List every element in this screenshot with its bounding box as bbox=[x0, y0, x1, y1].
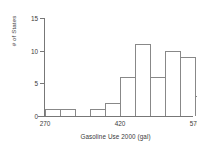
histogram-bar bbox=[90, 109, 106, 116]
histogram-bar bbox=[150, 77, 166, 116]
histogram-bar bbox=[195, 96, 197, 116]
histogram-bar bbox=[105, 103, 121, 116]
histogram-figure: # of States 051015 270420570 Gasoline Us… bbox=[0, 0, 197, 151]
histogram-bar bbox=[60, 109, 76, 116]
histogram-bar bbox=[165, 51, 181, 116]
histogram-bar bbox=[135, 44, 151, 116]
histogram-bar bbox=[180, 57, 196, 116]
histogram-bar bbox=[120, 77, 136, 116]
plot-area bbox=[0, 0, 197, 151]
histogram-bar bbox=[45, 109, 61, 116]
